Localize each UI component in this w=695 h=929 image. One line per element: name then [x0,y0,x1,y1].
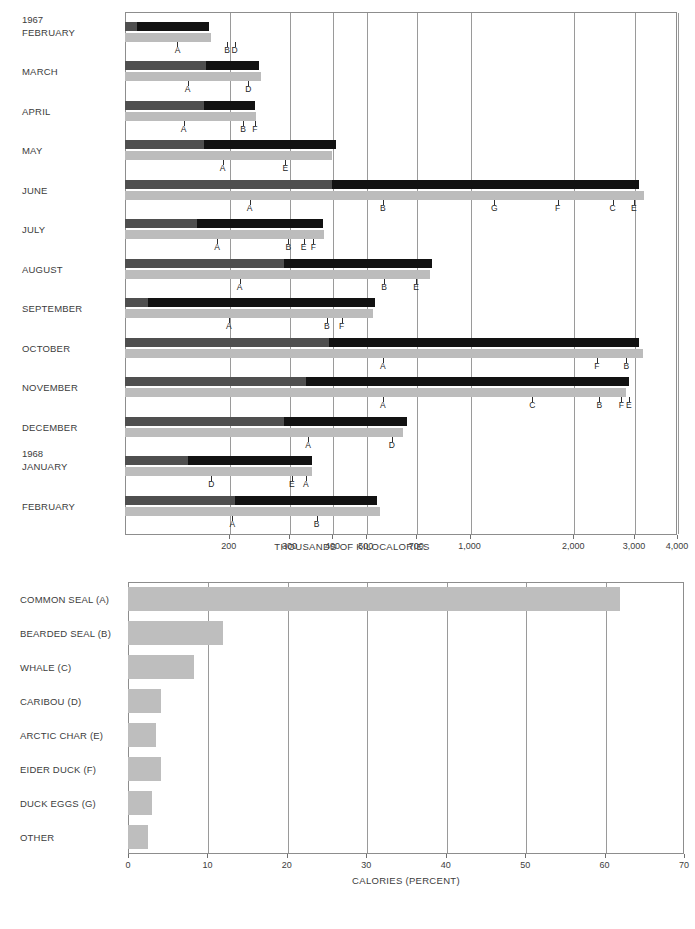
x-tick-60 [605,854,606,858]
month-label-april-2: APRIL [22,106,50,117]
category-label-2: WHALE (C) [20,662,71,673]
x-tick-label-40: 40 [441,860,451,870]
seal-segment-bar [125,298,148,307]
seal-segment-bar [125,456,188,465]
percent-bar [128,587,620,611]
marker-letter-B: B [381,282,387,292]
x-tick-label-70: 70 [679,860,689,870]
month-label-october-8: OCTOBER [22,343,70,354]
x-tick-4000 [677,535,678,539]
percent-bar [128,791,152,815]
x-tick-label-60: 60 [600,860,610,870]
category-label-4: ARCTIC CHAR (E) [20,730,103,741]
category-label-7: OTHER [20,832,54,843]
marker-letter-F: F [594,361,599,371]
marker-letter-A: A [220,163,226,173]
x-tick-20 [287,854,288,858]
cumulative-bar [125,33,211,42]
seal-segment-bar [125,140,204,149]
marker-letter-A: A [214,242,220,252]
gridline-4000 [678,13,679,534]
marker-letter-B: B [623,361,629,371]
x-tick-label-3000: 3,000 [623,541,646,551]
x-tick-0 [128,854,129,858]
gridline-40 [447,583,448,853]
x-tick-1000 [470,535,471,539]
seal-segment-bar [125,496,235,505]
month-label-december-10: DECEMBER [22,422,77,433]
x-tick-label-20: 20 [282,860,292,870]
marker-letter-A: A [237,282,243,292]
marker-letter-A: A [380,361,386,371]
marker-letter-A: A [305,440,311,450]
marker-letter-C: C [529,400,535,410]
year-label-1968: 1968 [22,448,43,459]
year-label-1967: 1967 [22,14,43,25]
x-tick-label-30: 30 [361,860,371,870]
gridline-30 [367,583,368,853]
marker-letter-C: C [609,203,615,213]
seal-segment-bar [125,101,204,110]
marker-letter-A: A [247,203,253,213]
percent-bar [128,757,161,781]
marker-letter-G: G [491,203,498,213]
x-tick-label-1000: 1,000 [458,541,481,551]
marker-letter-B: B [380,203,386,213]
x-tick-300 [289,535,290,539]
marker-letter-E: E [631,203,637,213]
cumulative-bar [125,230,324,239]
x-tick-400 [332,535,333,539]
gridline-2000 [574,13,575,534]
month-label-july-5: JULY [22,224,45,235]
marker-letter-A: A [380,400,386,410]
bottom-axis-title: CALORIES (PERCENT) [352,875,460,886]
marker-letter-A: A [226,321,232,331]
marker-letter-E: E [289,479,295,489]
marker-letter-A: A [230,519,236,529]
marker-letter-E: E [301,242,307,252]
marker-letter-F: F [252,124,257,134]
month-label-march-1: MARCH [22,66,58,77]
marker-letter-D: D [245,84,251,94]
seal-segment-bar [125,219,197,228]
month-label-november-9: NOVEMBER [22,382,78,393]
category-label-6: DUCK EGGS (G) [20,798,96,809]
x-tick-label-0: 0 [125,860,130,870]
cumulative-bar [125,388,626,397]
gridline-20 [288,583,289,853]
seal-segment-bar [125,377,306,386]
month-label-may-3: MAY [22,145,42,156]
x-tick-10 [207,854,208,858]
marker-letter-F: F [311,242,316,252]
monthly-kilocalories-chart: FEBRUARYABDMARCHADAPRILABFMAYAEJUNEABGFC… [0,0,695,560]
month-label-september-7: SEPTEMBER [22,303,82,314]
total-bar [125,22,209,31]
marker-letter-B: B [596,400,602,410]
x-tick-50 [525,854,526,858]
marker-letter-E: E [626,400,632,410]
cumulative-bar [125,191,644,200]
x-tick-70 [684,854,685,858]
marker-letter-A: A [175,45,181,55]
x-tick-label-2000: 2,000 [562,541,585,551]
seal-segment-bar [125,417,284,426]
calorie-percent-chart: COMMON SEAL (A)BEARDED SEAL (B)WHALE (C)… [0,568,695,929]
percent-bar [128,723,156,747]
month-label-february-0: FEBRUARY [22,27,75,38]
gridline-1000 [471,13,472,534]
x-tick-40 [446,854,447,858]
cumulative-bar [125,270,430,279]
gridline-60 [606,583,607,853]
cumulative-bar [125,112,256,121]
x-tick-700 [416,535,417,539]
figure-page: FEBRUARYABDMARCHADAPRILABFMAYAEJUNEABGFC… [0,0,695,929]
category-label-5: EIDER DUCK (F) [20,764,96,775]
seal-segment-bar [125,61,206,70]
percent-bar [128,655,194,679]
month-label-june-4: JUNE [22,185,48,196]
marker-letter-E: E [283,163,289,173]
x-tick-500 [366,535,367,539]
marker-letter-E: E [413,282,419,292]
seal-segment-bar [125,338,329,347]
marker-letter-D: D [208,479,214,489]
